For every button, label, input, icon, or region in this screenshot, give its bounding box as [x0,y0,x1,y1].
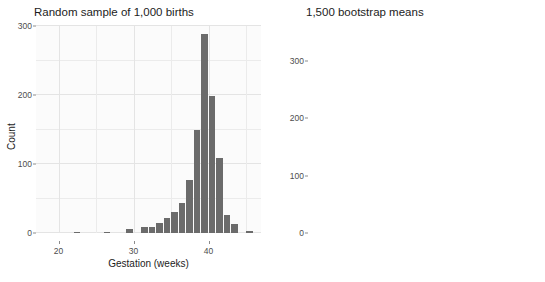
histogram-bar [104,232,111,233]
histogram-bar [141,227,148,233]
x-tick-label: 30 [129,246,138,256]
histogram-bar [171,212,178,233]
x-gridline [246,26,247,233]
x-tick-label: 20 [54,246,63,256]
y-tick-label: 100 [286,171,304,181]
histogram-bar [179,203,186,233]
y-tick-label: 300 [286,56,304,66]
plot-area-left [36,26,261,233]
x-axis-ticks-left: 203040 [36,241,261,253]
x-axis-title-left: Gestation (weeks) [36,258,261,269]
x-tick-mark [209,241,210,244]
y-tick-mark [33,164,36,165]
histogram-bar [186,180,193,233]
histogram-bar [209,96,216,233]
x-tick-mark [59,241,60,244]
histogram-bar [201,34,208,233]
panel-title-left: Random sample of 1,000 births [34,5,194,19]
histogram-bar [149,227,156,233]
y-tick-label: 200 [14,90,32,100]
y-tick-label: 0 [286,228,304,238]
y-gridline [36,198,261,199]
y-gridline [36,129,261,130]
histogram-bar [194,130,201,234]
y-tick-mark [305,60,308,61]
y-tick-label: 200 [286,113,304,123]
y-gridline [36,60,261,61]
y-gridline [36,94,261,95]
figure-container: Random sample of 1,000 births Count 0100… [0,0,545,282]
y-tick-mark [33,26,36,27]
y-tick-mark [33,233,36,234]
y-tick-label: 0 [14,228,32,238]
panel-random-sample: Random sample of 1,000 births Count 0100… [0,0,272,282]
histogram-bar [224,215,231,233]
histogram-bar [126,229,133,233]
x-gridline [96,26,97,233]
panel-title-right: 1,500 bootstrap means [306,5,424,19]
x-gridline [59,26,60,233]
y-tick-mark [33,95,36,96]
y-axis-title-left: Count [6,123,17,150]
x-tick-label: 40 [204,246,213,256]
x-gridline [134,26,135,233]
histogram-bar [164,218,171,233]
y-gridline [36,25,261,26]
histogram-bar [216,158,223,233]
histogram-bar [246,231,253,233]
panel-bootstrap-means: 1,500 bootstrap means Count 0100200300 3… [272,0,545,282]
x-tick-mark [134,241,135,244]
y-tick-mark [305,118,308,119]
y-gridline [36,163,261,164]
x-gridline [171,26,172,233]
y-tick-label: 300 [14,21,32,31]
histogram-bar [231,224,238,233]
histogram-bar [74,232,81,233]
y-tick-mark [305,233,308,234]
y-tick-label: 100 [14,159,32,169]
y-tick-mark [305,175,308,176]
histogram-bar [156,223,163,233]
